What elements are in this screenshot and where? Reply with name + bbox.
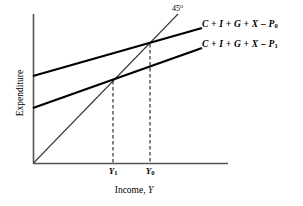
x-axis-label-variable: Y [148,185,153,195]
expenditure-line-low [33,48,202,108]
y-axis-label: Expenditure [15,53,25,133]
forty-five-degree-value: 45 [172,4,180,13]
expenditure-high-subscript: 0 [274,22,277,29]
x-axis-label-prefix: Income, [115,185,148,195]
x-tick-label-y1: Y1 [101,166,125,176]
expenditure-diagram: 45o C + I + G + X – P0 C + I + G + X – P… [0,0,303,206]
degree-symbol: o [180,3,183,9]
expenditure-low-subscript: 1 [274,42,277,49]
forty-five-degree-label: 45o [172,3,183,13]
expenditure-line-high [33,28,202,76]
expenditure-high-expression: C + I + G + X – P [202,19,274,29]
expenditure-low-expression: C + I + G + X – P [202,39,274,49]
expenditure-high-label: C + I + G + X – P0 [202,19,278,29]
x-tick-y1-subscript: 1 [114,169,117,176]
x-tick-y0-subscript: 0 [151,169,154,176]
x-axis-label: Income, Y [97,185,171,195]
forty-five-degree-line [34,14,179,163]
expenditure-low-label: C + I + G + X – P1 [202,39,278,49]
x-tick-label-y0: Y0 [138,166,162,176]
